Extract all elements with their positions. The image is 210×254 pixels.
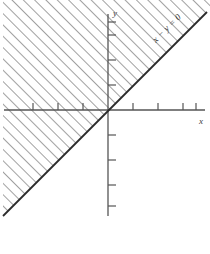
x-axis-ticks-positive [133, 103, 196, 110]
y-axis-ticks-negative [108, 135, 116, 206]
graph-figure: y x x − y = 0 [0, 0, 210, 254]
plot-canvas [0, 0, 210, 254]
shaded-region [3, 0, 210, 216]
y-axis-label: y [113, 9, 117, 18]
x-axis-label: x [199, 117, 203, 126]
